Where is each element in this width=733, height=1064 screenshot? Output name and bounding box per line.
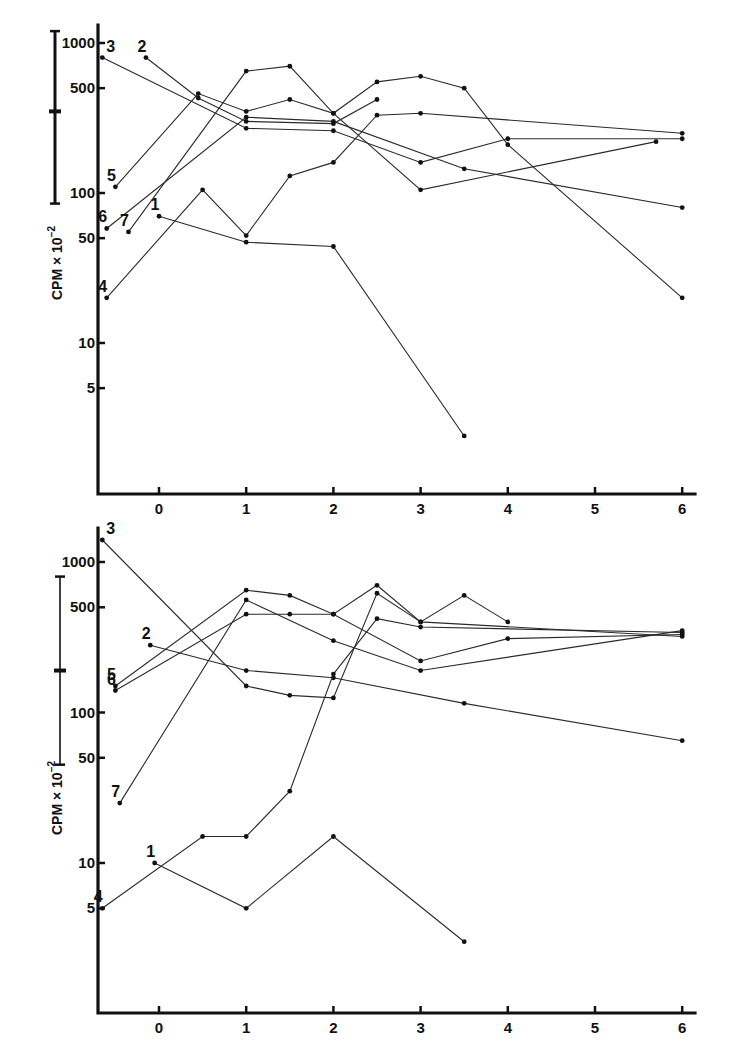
series-label: 4: [94, 888, 103, 905]
x-tick-label: 6: [678, 500, 686, 517]
series-6: 6: [98, 115, 684, 231]
series-line: [129, 66, 657, 232]
series-line: [107, 117, 683, 228]
data-point: [100, 906, 105, 911]
series-1: 1: [146, 834, 466, 944]
data-point: [331, 834, 336, 839]
x-tick-label: 6: [678, 1019, 686, 1036]
data-point: [244, 109, 249, 114]
series-label: 3: [106, 520, 115, 537]
x-tick-label: 3: [416, 500, 424, 517]
data-point: [244, 597, 249, 602]
series-line: [107, 113, 683, 297]
series-line: [102, 540, 508, 698]
data-point: [244, 612, 249, 617]
series-label: 6: [98, 208, 107, 225]
data-point: [418, 160, 423, 165]
data-point: [331, 696, 336, 701]
data-point: [418, 659, 423, 664]
series-line: [150, 645, 682, 741]
data-point: [462, 86, 467, 91]
two-panel-log-line-chart: 1000500100501050123456CPM × 10−21234567 …: [0, 0, 733, 1064]
data-point: [200, 187, 205, 192]
series-label: 7: [120, 212, 129, 229]
axis-lines: [98, 25, 695, 494]
data-point: [157, 214, 162, 219]
y-tick-label: 500: [70, 79, 95, 96]
x-tick-label: 2: [329, 500, 337, 517]
data-point: [244, 906, 249, 911]
series-line: [102, 619, 682, 909]
data-point: [287, 693, 292, 698]
data-point: [244, 233, 249, 238]
data-point: [418, 187, 423, 192]
data-point: [654, 139, 659, 144]
series-label: 5: [107, 167, 116, 184]
series-line: [102, 58, 682, 163]
data-point: [375, 80, 380, 85]
series-line: [115, 76, 682, 297]
data-point: [244, 668, 249, 673]
data-point: [680, 205, 685, 210]
series-3: 3: [100, 520, 510, 700]
series-4: 4: [94, 616, 685, 910]
data-point: [287, 612, 292, 617]
series-label: 2: [137, 38, 146, 55]
x-tick-label: 2: [329, 1019, 337, 1036]
data-point: [418, 111, 423, 116]
y-axis-label: CPM × 10−2: [46, 226, 65, 300]
data-point: [244, 240, 249, 245]
data-point: [505, 619, 510, 624]
series-3: 3: [100, 38, 685, 165]
data-point: [505, 636, 510, 641]
data-point: [331, 244, 336, 249]
series-2: 2: [137, 38, 379, 127]
data-point: [117, 801, 122, 806]
y-tick-label: 50: [78, 749, 95, 766]
x-tick-label: 0: [155, 1019, 163, 1036]
data-point: [287, 174, 292, 179]
data-point: [244, 126, 249, 131]
figure: 1000500100501050123456CPM × 10−21234567 …: [0, 0, 733, 1064]
data-point: [287, 97, 292, 102]
series-label: 3: [106, 38, 115, 55]
data-point: [287, 593, 292, 598]
data-point: [331, 638, 336, 643]
data-point: [113, 184, 118, 189]
y-tick-label: 1000: [62, 34, 95, 51]
x-tick-label: 4: [504, 500, 513, 517]
data-point: [196, 91, 201, 96]
data-point: [331, 672, 336, 677]
series-label: 2: [142, 625, 151, 642]
data-point: [100, 55, 105, 60]
x-tick-label: 5: [591, 500, 599, 517]
data-point: [680, 628, 685, 633]
data-point: [113, 688, 118, 693]
series-line: [115, 614, 682, 690]
data-point: [244, 69, 249, 74]
x-tick-label: 1: [242, 500, 250, 517]
series-1: 1: [151, 196, 467, 438]
y-tick-label: 10: [78, 854, 95, 871]
data-point: [505, 142, 510, 147]
x-tick-label: 4: [504, 1019, 513, 1036]
scale-bar: [54, 577, 66, 765]
data-point: [152, 861, 157, 866]
data-point: [680, 738, 685, 743]
data-point: [104, 295, 109, 300]
data-point: [244, 588, 249, 593]
series-label: 7: [111, 783, 120, 800]
data-point: [375, 97, 380, 102]
data-point: [100, 538, 105, 543]
data-point: [462, 166, 467, 171]
data-point: [104, 226, 109, 231]
data-point: [418, 668, 423, 673]
data-point: [200, 834, 205, 839]
x-tick-label: 3: [416, 1019, 424, 1036]
data-point: [244, 684, 249, 689]
series-4: 4: [98, 111, 684, 300]
data-point: [462, 939, 467, 944]
data-point: [331, 160, 336, 165]
data-point: [244, 834, 249, 839]
series-5: 5: [107, 74, 685, 300]
